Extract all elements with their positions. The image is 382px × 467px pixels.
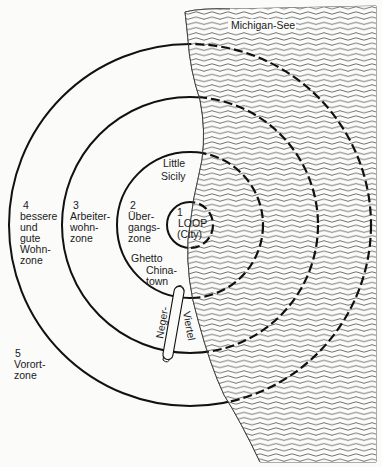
svg-text:Sicily: Sicily	[161, 170, 186, 182]
zone-2-label: 2 Über- gangs- zone	[128, 199, 161, 244]
svg-text:(City): (City)	[177, 228, 202, 240]
zone-3-label: 3 Arbeiter- wohn- zone	[69, 199, 111, 244]
svg-text:zone: zone	[20, 254, 43, 266]
zone-5-label: 5 Vorort- zone	[14, 347, 46, 381]
zone-4-label: 4 bessere und gute Wohn- zone	[20, 199, 58, 266]
little-sicily-label: Little Sicily	[161, 157, 186, 182]
svg-text:zone: zone	[128, 232, 151, 244]
svg-text:zone: zone	[70, 232, 93, 244]
svg-text:Little: Little	[163, 157, 185, 169]
concentric-zone-diagram: Michigan-See 4 bessere und gute Wohn- zo…	[0, 0, 382, 467]
ghetto-label: Ghetto	[131, 252, 163, 264]
chinatown-label: China- town	[146, 264, 177, 287]
svg-text:zone: zone	[14, 369, 37, 381]
viertel-label: Viertel	[181, 310, 198, 341]
lake-label: Michigan-See	[231, 19, 295, 31]
svg-text:town: town	[146, 275, 168, 287]
